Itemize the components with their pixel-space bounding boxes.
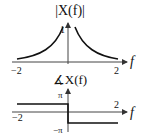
phase-x-label: f: [130, 105, 136, 120]
phase-step-line: [17, 104, 118, 123]
phase-y-tick-bottom: −π: [53, 125, 63, 135]
magnitude-plot: |X(f)| f 1 −2 2: [11, 3, 136, 76]
phase-title: ∡X(f): [53, 72, 87, 87]
magnitude-title: |X(f)|: [55, 3, 85, 19]
magnitude-curve-right: [75, 27, 118, 59]
magnitude-curve-left: [17, 27, 63, 59]
magnitude-x-tick-left: −2: [11, 65, 22, 76]
phase-plot: ∡X(f) f π −π −2 2: [12, 72, 136, 135]
spectrum-diagram: |X(f)| f 1 −2 2 ∡X(f) f π −π −2 2: [0, 0, 145, 135]
phase-x-tick-left: −2: [12, 112, 23, 123]
magnitude-x-label: f: [130, 54, 136, 69]
magnitude-x-tick-right: 2: [114, 65, 119, 76]
phase-y-tick-top: π: [58, 90, 63, 100]
phase-x-tick-right: 2: [114, 99, 119, 110]
